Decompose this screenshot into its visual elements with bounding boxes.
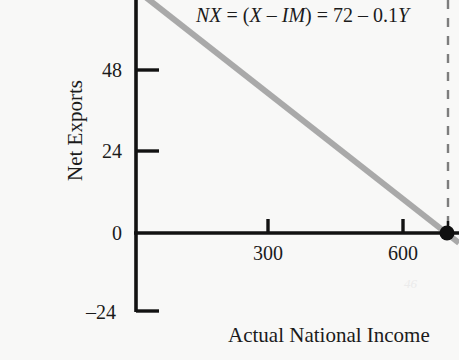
y-axis-title: Net Exports bbox=[65, 46, 86, 216]
curve-equation-annotation: NX = (X – IM) = 72 – 0.1Y bbox=[196, 5, 409, 25]
equation-eq2: ) = 72 – 0.1 bbox=[305, 4, 398, 26]
equation-im: IM bbox=[282, 4, 305, 26]
zero-net-exports-marker bbox=[440, 226, 455, 241]
faint-scan-artifact: 46 bbox=[404, 276, 430, 292]
x-axis-title: Actual National Income bbox=[228, 325, 430, 346]
x-tick-label-600: 600 bbox=[368, 243, 438, 263]
net-exports-chart: 48 24 0 –24 300 600 Net Exports Actual N… bbox=[0, 0, 459, 360]
x-tick-label-300: 300 bbox=[233, 243, 303, 263]
equation-eq1: = ( bbox=[222, 4, 250, 26]
y-tick-label-0: 0 bbox=[64, 223, 122, 243]
equation-minus1: – bbox=[262, 4, 282, 26]
equation-y: Y bbox=[398, 4, 409, 26]
equation-nx: NX bbox=[196, 4, 222, 26]
y-tick-label-minus-24: –24 bbox=[58, 302, 116, 322]
equation-x: X bbox=[250, 4, 262, 26]
